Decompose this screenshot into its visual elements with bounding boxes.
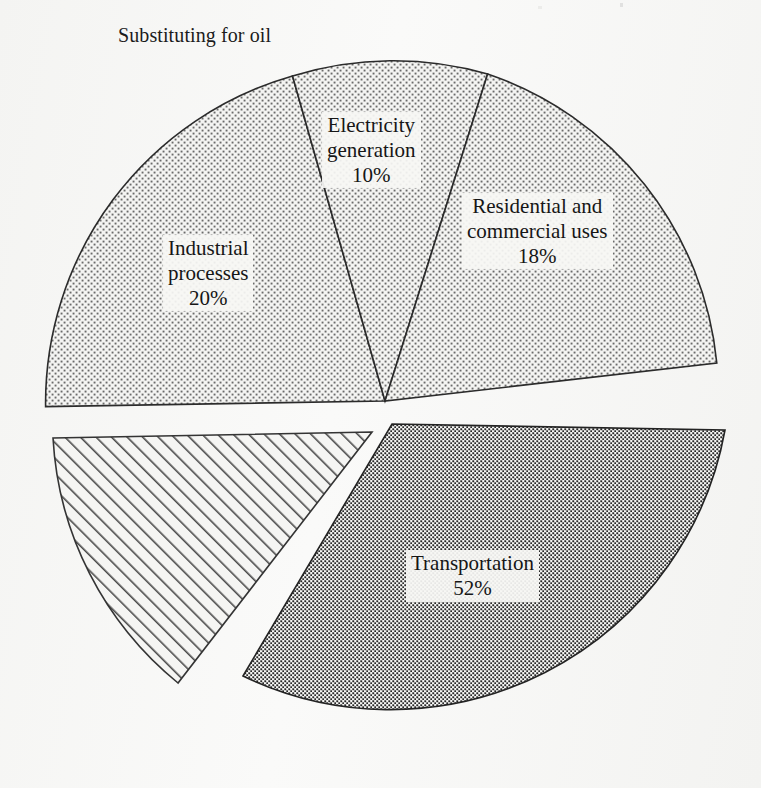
- pie-label-electricity-line2: generation: [327, 138, 416, 162]
- pie-label-transportation: Transportation 52%: [406, 550, 539, 602]
- pie-label-industrial-percent: 20%: [168, 286, 248, 311]
- pie-label-electricity-generation: Electricity generation 10%: [322, 112, 421, 188]
- pie-label-industrial-processes: Industrial processes 20%: [163, 235, 253, 311]
- pie-label-residential-commercial: Residential and commercial uses 18%: [462, 193, 613, 269]
- pie-label-transportation-line1: Transportation: [411, 551, 534, 575]
- pie-label-industrial-line1: Industrial: [168, 236, 248, 260]
- pie-label-residential-line1: Residential and: [472, 194, 602, 218]
- pie-label-residential-percent: 18%: [467, 244, 608, 269]
- chart-page: Substituting for oil: [0, 0, 761, 788]
- pie-label-transportation-percent: 52%: [411, 576, 534, 601]
- pie-label-residential-line2: commercial uses: [467, 219, 608, 243]
- pie-label-electricity-line1: Electricity: [328, 113, 415, 137]
- pie-label-industrial-line2: processes: [168, 261, 248, 285]
- pie-label-electricity-percent: 10%: [327, 163, 416, 188]
